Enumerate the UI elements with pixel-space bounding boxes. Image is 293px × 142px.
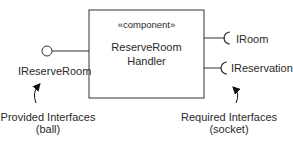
ball-icon: [42, 46, 52, 56]
provided-annotation-line1: Provided Interfaces: [1, 111, 96, 123]
arrow-icon: [34, 86, 38, 103]
required-interface-label-ireservation: IReservation: [231, 62, 293, 74]
required-annotation-line2: (socket): [209, 123, 248, 135]
component-name-line2: Handler: [127, 55, 166, 67]
required-interface-label-iroom: IRoom: [236, 33, 268, 45]
provided-annotation-line2: (ball): [36, 123, 60, 135]
component-diagram: «component» ReserveRoom Handler IReserve…: [0, 0, 293, 142]
required-annotation-line1: Required Interfaces: [181, 111, 277, 123]
component-stereotype: «component»: [118, 19, 176, 30]
provided-interface-label: IReserveRoom: [18, 65, 91, 77]
component-name-line1: ReserveRoom: [111, 41, 181, 53]
arrow-icon: [235, 89, 238, 103]
